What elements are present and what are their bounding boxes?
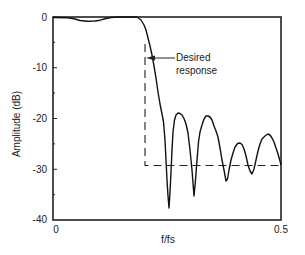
annotation-text-line2: response <box>176 65 218 76</box>
annotation-text-line1: Desired <box>176 52 210 63</box>
annotation-arrow <box>146 56 175 61</box>
actual-response-curve <box>53 17 281 208</box>
y-tick-label: 0 <box>41 12 47 23</box>
y-tick-label: -10 <box>33 62 48 73</box>
x-axis-label: f/fs <box>161 233 175 245</box>
y-tick-label: -20 <box>33 113 48 124</box>
y-tick-label: -40 <box>33 214 48 225</box>
y-tick-labels: 0 -10 -20 -30 -40 <box>33 12 48 226</box>
x-tick-label: 0.5 <box>274 224 288 235</box>
y-tick-label: -30 <box>33 164 48 175</box>
x-tick-label: 0 <box>53 224 59 235</box>
y-axis-label: Amplitude (dB) <box>11 91 22 157</box>
amplitude-response-chart: 0 -10 -20 -30 -40 0 0.5 f/fs Amplitude (… <box>0 0 305 255</box>
